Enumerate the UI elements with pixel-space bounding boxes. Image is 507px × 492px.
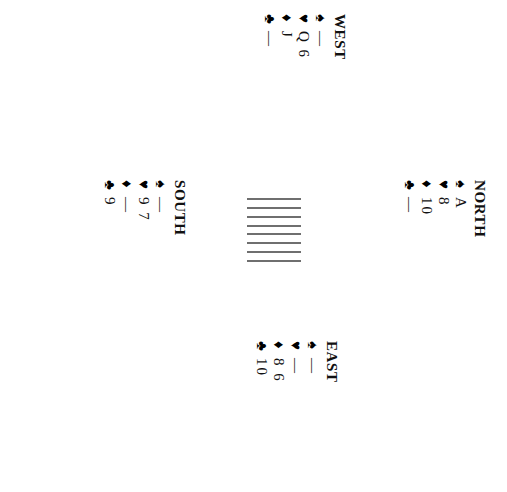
diamond-icon: ♦ [419, 180, 434, 196]
hand-west-label: WEST [330, 14, 348, 60]
hand-north-hearts-cards: 8 [436, 196, 451, 207]
hand-east-diamonds-row: ♦ 8 6 [270, 341, 287, 383]
bridge-hand-diagram: WEST ♠ — ♥ Q 6 ♦ J ♣ — NORTH ♠ A ♥ 8 [0, 0, 507, 492]
hand-south-clubs-cards: 9 [102, 196, 117, 207]
diamond-icon: ♦ [119, 180, 134, 196]
hand-east-spades-cards: — [305, 357, 320, 375]
hand-south-diamonds-cards: — [119, 196, 134, 214]
heart-icon: ♥ [288, 341, 303, 357]
hatch-line [247, 225, 301, 227]
hand-north-spades-cards: A [453, 196, 468, 210]
hand-south: SOUTH ♠ — ♥ 9 7 ♦ — ♣ 9 [101, 180, 188, 236]
diamond-icon: ♦ [279, 14, 294, 30]
hatch-line [247, 260, 301, 262]
hand-north-hearts-row: ♥ 8 [435, 180, 452, 207]
club-icon: ♣ [262, 14, 277, 30]
hand-east-hearts-row: ♥ — [287, 341, 304, 375]
hand-north-diamonds-row: ♦ 10 [418, 180, 435, 216]
hatch-line [247, 233, 301, 235]
hand-north-diamonds-cards: 10 [419, 196, 434, 216]
club-icon: ♣ [254, 341, 269, 357]
club-icon: ♣ [402, 180, 417, 196]
hand-east-diamonds-cards: 8 6 [271, 357, 286, 383]
hand-north-spades-row: ♠ A [452, 180, 469, 210]
diamond-icon: ♦ [271, 341, 286, 357]
hatch-line [247, 242, 301, 244]
heart-icon: ♥ [296, 14, 311, 30]
hand-west-spades-cards: — [313, 30, 328, 48]
hand-west-spades-row: ♠ — [312, 14, 329, 48]
hand-north: NORTH ♠ A ♥ 8 ♦ 10 ♣ — [401, 180, 488, 237]
hand-west-diamonds-cards: J [279, 30, 294, 39]
hand-west: WEST ♠ — ♥ Q 6 ♦ J ♣ — [261, 14, 348, 60]
hand-south-spades-cards: — [153, 196, 168, 214]
hand-north-label: NORTH [470, 180, 488, 237]
spade-icon: ♠ [305, 341, 320, 357]
hand-south-spades-row: ♠ — [152, 180, 169, 214]
heart-icon: ♥ [436, 180, 451, 196]
hand-south-hearts-row: ♥ 9 7 [135, 180, 152, 222]
hatched-center-block [247, 198, 301, 262]
hand-south-label: SOUTH [170, 180, 188, 236]
hand-east-label: EAST [322, 341, 340, 383]
hand-west-hearts-row: ♥ Q 6 [295, 14, 312, 59]
hand-east-hearts-cards: — [288, 357, 303, 375]
hand-north-clubs-cards: — [402, 196, 417, 214]
hand-west-clubs-row: ♣ — [261, 14, 278, 48]
club-icon: ♣ [102, 180, 117, 196]
hand-west-clubs-cards: — [262, 30, 277, 48]
hand-west-diamonds-row: ♦ J [278, 14, 295, 39]
hatch-line [247, 216, 301, 218]
spade-icon: ♠ [453, 180, 468, 196]
hand-north-clubs-row: ♣ — [401, 180, 418, 214]
hand-east-spades-row: ♠ — [304, 341, 321, 375]
hand-south-clubs-row: ♣ 9 [101, 180, 118, 207]
hand-east-clubs-row: ♣ 10 [253, 341, 270, 377]
hatch-line [247, 251, 301, 253]
spade-icon: ♠ [153, 180, 168, 196]
hand-east: EAST ♠ — ♥ — ♦ 8 6 ♣ 10 [253, 341, 340, 383]
hand-south-hearts-cards: 9 7 [136, 196, 151, 222]
hatch-line [247, 207, 301, 209]
spade-icon: ♠ [313, 14, 328, 30]
hand-east-clubs-cards: 10 [254, 357, 269, 377]
hand-west-hearts-cards: Q 6 [296, 30, 311, 59]
hatch-line [247, 198, 301, 200]
hand-south-diamonds-row: ♦ — [118, 180, 135, 214]
heart-icon: ♥ [136, 180, 151, 196]
